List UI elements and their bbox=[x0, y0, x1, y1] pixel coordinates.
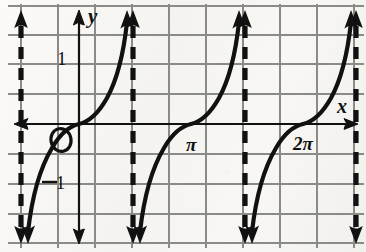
tangent-curve-group bbox=[28, 22, 351, 232]
tangent-branch-right bbox=[252, 22, 351, 232]
tangent-branch-middle bbox=[140, 22, 239, 232]
x-tick-label-two-pi: 2π bbox=[293, 134, 313, 153]
y-tick-label-minus-one: −1 bbox=[44, 173, 66, 192]
tangent-graph-svg bbox=[0, 0, 366, 252]
figure-canvas: y x 1 −1 O π 2π bbox=[0, 0, 366, 252]
asymptote-three-half-pi bbox=[238, 10, 252, 244]
tangent-branch-left bbox=[28, 22, 127, 232]
asymptote-half-pi bbox=[126, 10, 140, 244]
y-axis-arrow-up bbox=[73, 10, 84, 25]
asymptote-group bbox=[14, 10, 363, 244]
x-tick-label-pi: π bbox=[186, 135, 196, 154]
x-axis-label: x bbox=[337, 96, 347, 116]
y-tick-label-one: 1 bbox=[57, 49, 67, 68]
y-axis-label: y bbox=[88, 6, 97, 27]
y-axis-arrow-down bbox=[73, 229, 84, 244]
